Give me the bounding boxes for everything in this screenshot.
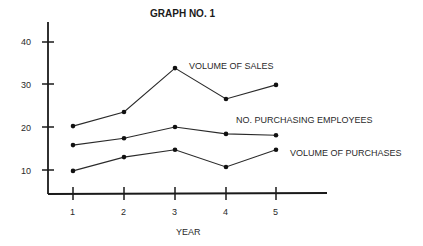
chart-title: GRAPH NO. 1 xyxy=(150,8,215,19)
data-point xyxy=(173,148,178,153)
x-tick-label-1: 1 xyxy=(70,207,75,217)
series-purchasing-employees xyxy=(71,125,279,148)
data-point xyxy=(71,124,76,129)
y-tick-label-20: 20 xyxy=(21,123,31,133)
x-tick-label-2: 2 xyxy=(121,207,126,217)
data-point xyxy=(224,97,229,102)
data-point xyxy=(71,143,76,148)
data-point xyxy=(173,125,178,130)
data-point xyxy=(71,169,76,174)
x-axis xyxy=(48,193,327,194)
data-point xyxy=(274,148,279,153)
series-label-purchasing-employees: NO. PURCHASING EMPLOYEES xyxy=(236,115,373,125)
data-point xyxy=(122,136,127,141)
data-point xyxy=(274,83,279,88)
x-tick-label-3: 3 xyxy=(172,207,177,217)
data-point xyxy=(122,155,127,160)
data-point xyxy=(224,132,229,137)
data-point xyxy=(173,66,178,71)
y-tick-label-10: 10 xyxy=(21,166,31,176)
series-line xyxy=(73,127,276,145)
line-chart: GRAPH NO. 1 40 30 20 10 1 2 3 4 5 YEAR V… xyxy=(0,0,423,246)
y-tick-label-40: 40 xyxy=(21,37,31,47)
series-label-volume-of-purchases: VOLUME OF PURCHASES xyxy=(290,148,402,158)
series-label-volume-of-sales: VOLUME OF SALES xyxy=(189,61,274,71)
data-point xyxy=(274,133,279,138)
series-line xyxy=(73,150,276,171)
series-volume-of-purchases xyxy=(71,148,279,174)
data-point xyxy=(224,165,229,170)
x-axis-label: YEAR xyxy=(176,227,201,237)
data-point xyxy=(122,110,127,115)
x-tick-label-4: 4 xyxy=(223,207,228,217)
y-tick-label-30: 30 xyxy=(21,80,31,90)
x-tick-label-5: 5 xyxy=(273,207,278,217)
